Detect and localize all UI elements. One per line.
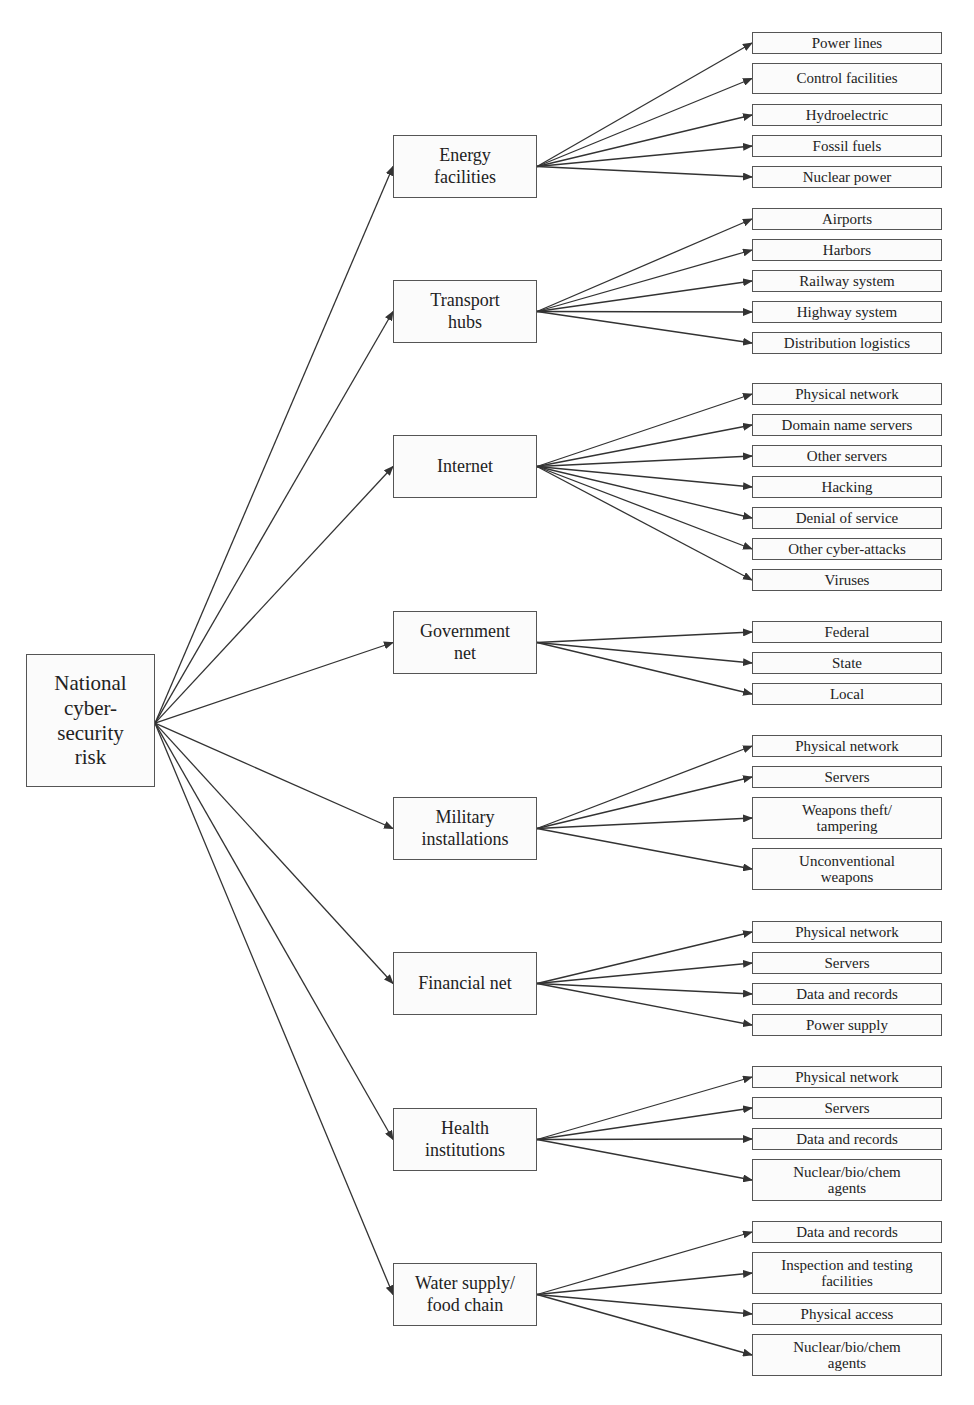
leaf-node: Data and records	[752, 983, 942, 1005]
leaf-node-label: Local	[830, 686, 864, 703]
category-node: Internet	[393, 435, 537, 498]
category-to-leaf-arrow	[537, 984, 752, 1026]
leaf-node: Denial of service	[752, 507, 942, 529]
leaf-node-label: Physical network	[795, 1069, 899, 1086]
leaf-node: Fossil fuels	[752, 135, 942, 157]
category-to-leaf-arrow	[537, 281, 752, 312]
leaf-node-label: Inspection and testing facilities	[781, 1257, 913, 1290]
leaf-node: Physical network	[752, 383, 942, 405]
category-node: Government net	[393, 611, 537, 674]
category-node: Military installations	[393, 797, 537, 860]
category-to-leaf-arrow	[537, 1139, 752, 1140]
category-to-leaf-arrow	[537, 467, 752, 519]
leaf-node: Nuclear/bio/chem agents	[752, 1159, 942, 1201]
leaf-node: Highway system	[752, 301, 942, 323]
leaf-node-label: Other cyber-attacks	[788, 541, 906, 558]
category-to-leaf-arrow	[537, 1108, 752, 1140]
category-to-leaf-arrow	[537, 984, 752, 995]
category-to-leaf-arrow	[537, 632, 752, 643]
category-to-leaf-arrow	[537, 167, 752, 178]
leaf-node-label: Data and records	[796, 1224, 898, 1241]
leaf-node-label: Servers	[825, 955, 870, 972]
category-to-leaf-arrow	[537, 746, 752, 829]
leaf-node: Other cyber-attacks	[752, 538, 942, 560]
root-to-category-arrow	[155, 723, 393, 983]
category-to-leaf-arrow	[537, 777, 752, 829]
leaf-node-label: Harbors	[823, 242, 871, 259]
leaf-node: Hydroelectric	[752, 104, 942, 126]
category-to-leaf-arrow	[537, 963, 752, 984]
leaf-node-label: State	[832, 655, 862, 672]
leaf-node-label: Physical network	[795, 738, 899, 755]
leaf-node-label: Other servers	[807, 448, 887, 465]
root-to-category-arrow	[155, 723, 393, 1139]
category-node-label: Energy facilities	[434, 145, 496, 187]
leaf-node-label: Data and records	[796, 986, 898, 1003]
leaf-node-label: Hacking	[822, 479, 873, 496]
leaf-node: Other servers	[752, 445, 942, 467]
root-to-category-arrow	[155, 467, 393, 724]
leaf-node: Data and records	[752, 1221, 942, 1243]
leaf-node: Data and records	[752, 1128, 942, 1150]
leaf-node: Servers	[752, 1097, 942, 1119]
leaf-node: State	[752, 652, 942, 674]
category-to-leaf-arrow	[537, 643, 752, 664]
root-to-category-arrow	[155, 312, 393, 724]
category-to-leaf-arrow	[537, 456, 752, 467]
category-to-leaf-arrow	[537, 312, 752, 344]
root-to-category-arrow	[155, 723, 393, 828]
root-node-label: National cyber- security risk	[54, 671, 126, 770]
leaf-node: Power lines	[752, 32, 942, 54]
leaf-node: Domain name servers	[752, 414, 942, 436]
leaf-node: Unconventional weapons	[752, 848, 942, 890]
leaf-node-label: Weapons theft/ tampering	[802, 802, 892, 835]
category-to-leaf-arrow	[537, 1295, 752, 1356]
root-to-category-arrow	[155, 167, 393, 724]
leaf-node: Railway system	[752, 270, 942, 292]
leaf-node-label: Hydroelectric	[806, 107, 888, 124]
leaf-node-label: Distribution logistics	[784, 335, 910, 352]
leaf-node: Airports	[752, 208, 942, 230]
root-to-category-arrow	[155, 643, 393, 724]
leaf-node: Physical network	[752, 735, 942, 757]
category-node: Health institutions	[393, 1108, 537, 1171]
leaf-node-label: Nuclear/bio/chem agents	[793, 1164, 900, 1197]
category-to-leaf-arrow	[537, 425, 752, 467]
category-node: Transport hubs	[393, 280, 537, 343]
root-to-category-arrow	[155, 723, 393, 1294]
category-to-leaf-arrow	[537, 1273, 752, 1295]
category-node-label: Financial net	[418, 973, 511, 994]
leaf-node-label: Unconventional weapons	[799, 853, 895, 886]
category-to-leaf-arrow	[537, 467, 752, 550]
leaf-node-label: Viruses	[825, 572, 870, 589]
leaf-node-label: Highway system	[797, 304, 897, 321]
leaf-node-label: Physical access	[801, 1306, 894, 1323]
category-to-leaf-arrow	[537, 1232, 752, 1295]
category-to-leaf-arrow	[537, 394, 752, 467]
category-node-label: Transport hubs	[430, 290, 499, 332]
category-to-leaf-arrow	[537, 818, 752, 829]
leaf-node-label: Federal	[825, 624, 870, 641]
leaf-node: Inspection and testing facilities	[752, 1252, 942, 1294]
leaf-node-label: Power lines	[812, 35, 882, 52]
category-node-label: Health institutions	[425, 1118, 505, 1160]
leaf-node-label: Physical network	[795, 924, 899, 941]
category-node: Water supply/ food chain	[393, 1263, 537, 1326]
leaf-node-label: Denial of service	[796, 510, 898, 527]
category-to-leaf-arrow	[537, 1077, 752, 1140]
category-node-label: Military installations	[422, 807, 509, 849]
risk-tree-diagram: National cyber- security riskEnergy faci…	[0, 0, 974, 1405]
leaf-node-label: Fossil fuels	[813, 138, 882, 155]
leaf-node-label: Domain name servers	[782, 417, 913, 434]
category-to-leaf-arrow	[537, 219, 752, 312]
leaf-node-label: Physical network	[795, 386, 899, 403]
leaf-node: Servers	[752, 766, 942, 788]
leaf-node-label: Airports	[822, 211, 872, 228]
root-node: National cyber- security risk	[26, 654, 155, 787]
leaf-node-label: Servers	[825, 1100, 870, 1117]
leaf-node-label: Power supply	[806, 1017, 888, 1034]
leaf-node: Physical network	[752, 921, 942, 943]
category-to-leaf-arrow	[537, 643, 752, 695]
leaf-node: Hacking	[752, 476, 942, 498]
category-to-leaf-arrow	[537, 43, 752, 167]
